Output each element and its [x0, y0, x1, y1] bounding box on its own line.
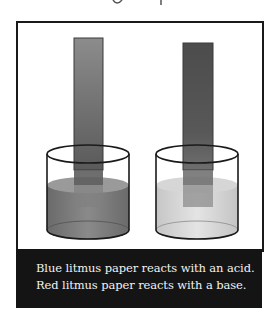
cropped-heading-fragment — [0, 0, 278, 8]
litmus-illustration — [18, 23, 262, 250]
caption-panel: Blue litmus paper reacts with an acid. R… — [16, 249, 262, 308]
caption-line-acid: Blue litmus paper reacts with an acid. — [36, 261, 254, 275]
right-litmus-strip — [183, 43, 213, 170]
caption-line-base: Red litmus paper reacts with a base. — [36, 278, 246, 292]
litmus-illustration-frame — [16, 21, 264, 252]
left-litmus-strip — [74, 38, 103, 170]
left-beaker — [47, 38, 129, 239]
right-beaker — [156, 43, 238, 239]
